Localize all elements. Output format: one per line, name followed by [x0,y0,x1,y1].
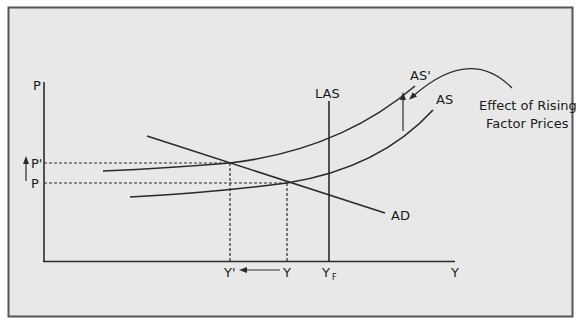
y-axis-label: P [33,78,41,93]
y-label: Y [282,265,291,280]
las-label: LAS [315,86,340,101]
ad-label: AD [391,208,410,223]
p-label: P [31,176,39,191]
as-prime-label: AS' [410,68,431,83]
as-ad-diagram: P Y P' P AD AS' AS LAS Effect of Rising … [0,0,580,327]
p-prime-label: P' [31,156,42,171]
y-full-subscript: F [332,273,337,282]
x-axis-label: Y [450,265,459,280]
as-label: AS [436,92,453,107]
annotation-line-1: Effect of Rising [479,98,577,113]
annotation-line-2: Factor Prices [486,116,569,131]
y-prime-label: Y' [223,265,236,280]
y-full-label: Y [321,265,330,280]
